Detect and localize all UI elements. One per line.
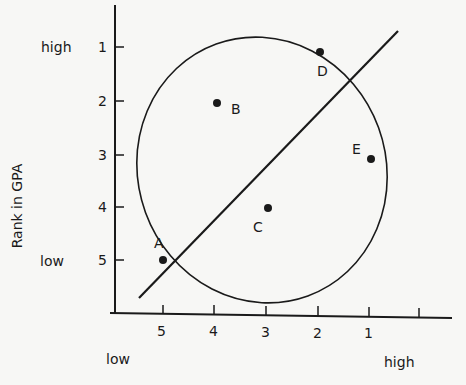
point-c	[264, 204, 272, 212]
point-label-d: D	[317, 63, 328, 79]
data-points	[159, 48, 375, 264]
point-d	[316, 48, 324, 56]
y-tick-label: 5	[98, 252, 107, 268]
y-tick-label: 1	[98, 39, 107, 55]
point-label-b: B	[231, 101, 241, 117]
y-ticks	[115, 47, 124, 260]
y-tick-label: 3	[98, 147, 107, 163]
point-a	[159, 256, 167, 264]
x-low-label: low	[106, 351, 130, 367]
point-label-e: E	[352, 141, 361, 157]
x-tick-label: 1	[364, 325, 373, 341]
y-tick-label: 4	[98, 199, 107, 215]
y-high-label: high	[41, 39, 72, 55]
x-tick-label: 5	[157, 323, 166, 339]
y-tick-label: 2	[98, 93, 107, 109]
x-tick-label: 2	[313, 325, 322, 341]
y-low-label: low	[40, 253, 64, 269]
y-axis-title: Rank in GPA	[9, 163, 25, 248]
point-b	[213, 99, 221, 107]
x-tick-label: 4	[209, 323, 218, 339]
point-label-c: C	[253, 219, 263, 235]
point-e	[367, 155, 375, 163]
x-tick-label: 3	[261, 324, 270, 340]
point-label-a: A	[154, 235, 164, 251]
scatter-chart: 1 2 3 4 5 5 4 3 2 1 high low low high Ra…	[0, 0, 466, 385]
x-high-label: high	[384, 354, 415, 370]
x-axis	[110, 313, 452, 318]
